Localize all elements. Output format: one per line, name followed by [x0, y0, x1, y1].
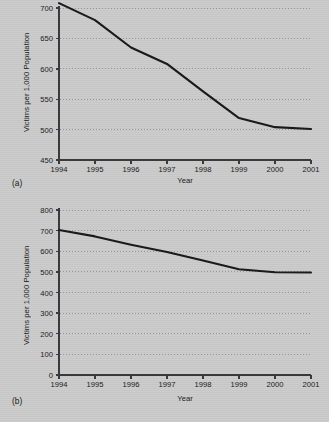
chart-panel-a: Victims per 1,000 Population Year (a) 45… — [0, 0, 329, 196]
chart-b-x-tick-label: 1996 — [123, 380, 140, 389]
chart-a-x-tick-label: 1999 — [231, 165, 248, 174]
chart-a-y-tick-label: 700 — [0, 4, 53, 13]
chart-a-y-tick-label: 550 — [0, 95, 53, 104]
chart-a-x-tick-label: 2001 — [303, 165, 320, 174]
chart-a-x-tick-label: 1998 — [195, 165, 212, 174]
chart-a-y-tick-label: 600 — [0, 64, 53, 73]
chart-a-x-tick-label: 1994 — [51, 165, 68, 174]
chart-b-plot-container: Victims per 1,000 Population Year (b) 01… — [0, 196, 329, 422]
chart-b-x-tick-label: 1995 — [87, 380, 104, 389]
chart-b-x-tick-label: 1998 — [195, 380, 212, 389]
chart-b-y-tick-label: 400 — [0, 288, 53, 297]
chart-b-x-axis-label: Year — [59, 394, 311, 403]
chart-b-y-tick-label: 700 — [0, 226, 53, 235]
chart-b-x-tick-label: 1999 — [231, 380, 248, 389]
chart-a-x-tick-label: 1996 — [123, 165, 140, 174]
chart-a-x-tick-label: 2000 — [267, 165, 284, 174]
chart-b-y-tick-label: 500 — [0, 267, 53, 276]
chart-b-x-tick-label: 1997 — [159, 380, 176, 389]
chart-a-x-tick-label: 1995 — [87, 165, 104, 174]
chart-panel-b: Victims per 1,000 Population Year (b) 01… — [0, 196, 329, 422]
chart-a-x-tick-label: 1997 — [159, 165, 176, 174]
chart-b-x-tick-label: 2001 — [303, 380, 320, 389]
chart-a-y-tick-label: 650 — [0, 34, 53, 43]
chart-a-plot-container: Victims per 1,000 Population Year (a) 45… — [0, 0, 329, 196]
chart-b-panel-letter: (b) — [12, 396, 22, 406]
chart-a-panel-letter: (a) — [12, 178, 22, 188]
chart-a-y-tick-label: 450 — [0, 156, 53, 165]
chart-b-y-tick-label: 300 — [0, 309, 53, 318]
chart-b-y-tick-label: 0 — [0, 371, 53, 380]
chart-b-y-tick-label: 100 — [0, 350, 53, 359]
chart-b-y-tick-label: 200 — [0, 329, 53, 338]
chart-b-y-tick-label: 600 — [0, 247, 53, 256]
chart-b-y-tick-label: 800 — [0, 206, 53, 215]
chart-b-x-tick-label: 2000 — [267, 380, 284, 389]
chart-b-x-tick-label: 1994 — [51, 380, 68, 389]
chart-a-y-tick-label: 500 — [0, 125, 53, 134]
chart-a-x-axis-label: Year — [59, 176, 311, 185]
